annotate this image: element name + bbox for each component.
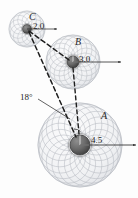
disk-radius-value-A: 4.5 (91, 136, 102, 145)
mechanism-figure: C B A 2.0 3.0 4.5 18° (0, 0, 138, 198)
disk-radius-value-B: 3.0 (79, 55, 90, 64)
disk-radius-value-C: 2.0 (33, 22, 44, 31)
disk-A (38, 103, 136, 187)
disk-label-A: A (101, 111, 107, 121)
angle-label: 18° (20, 93, 33, 102)
disk-label-B: B (75, 37, 81, 47)
